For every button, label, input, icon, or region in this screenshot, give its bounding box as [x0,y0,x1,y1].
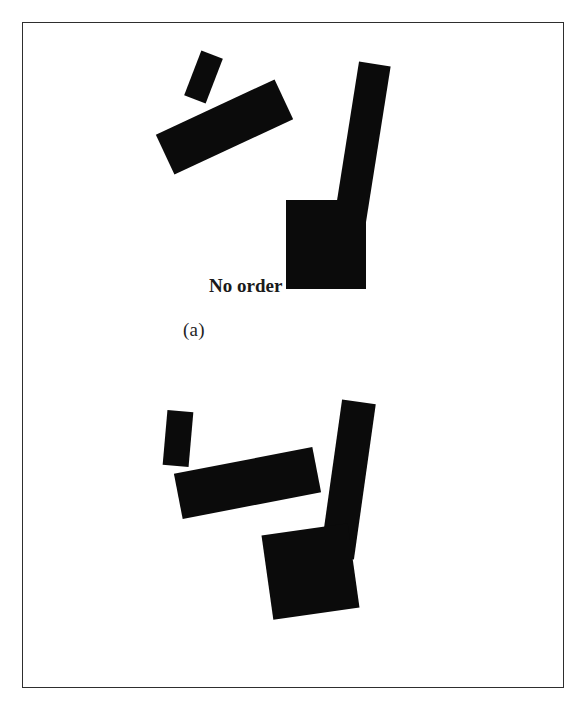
panel-a: No order (a) [23,23,563,355]
panel-b-block-square [262,523,360,619]
panel-b: Order (b) [23,355,563,687]
panel-a-caption: No order [209,275,282,297]
panel-b-block-long-bar [174,447,321,519]
panel-b-block-small-bar [163,410,194,467]
panel-a-block-small-bar [184,50,223,103]
panel-a-label: (a) [183,319,205,341]
figure-root: No order (a) Order (b) [0,0,588,709]
figure-frame-border: No order (a) Order (b) [22,22,564,688]
panel-a-block-square [286,200,366,289]
panel-a-block-long-bar [156,79,293,174]
